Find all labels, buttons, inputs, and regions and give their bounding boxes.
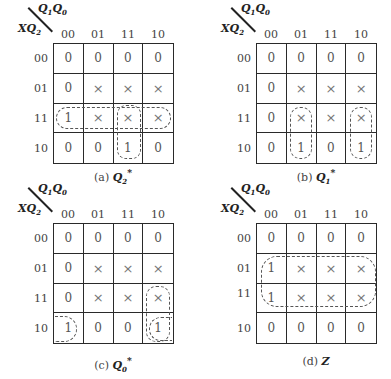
row-header: 11 <box>28 292 48 305</box>
cell: 0 <box>317 133 347 163</box>
row-header: 11 <box>231 287 251 300</box>
cell: 0 <box>84 313 114 343</box>
cell: 0 <box>257 74 287 104</box>
row-header: 00 <box>28 52 48 65</box>
row-header: 11 <box>231 112 251 125</box>
cell: × <box>317 74 347 104</box>
kmap-c: Q1Q0 XQ2 00 01 11 10 00 01 11 10 0 0 0 0… <box>0 180 180 365</box>
cell: × <box>84 284 114 314</box>
row-header: 10 <box>28 142 48 155</box>
cell: 0 <box>84 133 114 163</box>
cell: 0 <box>287 313 317 343</box>
col-header: 00 <box>256 208 286 221</box>
col-header: 10 <box>143 28 173 41</box>
cell: 0 <box>317 313 347 343</box>
cell: × <box>84 254 114 284</box>
cell: 0 <box>257 313 287 343</box>
kmap-a: Q1Q0 XQ2 00 01 11 10 00 01 11 10 0 0 0 0… <box>0 0 180 185</box>
map-caption: (c) Q0* <box>53 355 173 374</box>
cell: 0 <box>346 44 376 74</box>
row-header: 00 <box>231 232 251 245</box>
cell: 0 <box>143 133 173 163</box>
row-header: 01 <box>231 262 251 275</box>
cell: 0 <box>287 44 317 74</box>
col-header: 11 <box>316 28 346 41</box>
cell: × <box>84 74 114 104</box>
row-variable-label: XQ2 <box>221 22 244 37</box>
kmap-d: Q1Q0 XQ2 00 01 11 10 00 01 11 10 0 0 0 0… <box>203 180 383 365</box>
cell: × <box>317 104 347 134</box>
grouping-loop <box>350 107 372 159</box>
cell: × <box>143 254 173 284</box>
cell: 0 <box>54 133 84 163</box>
row-header: 10 <box>231 322 251 335</box>
row-variable-label: XQ2 <box>18 22 41 37</box>
cell: 0 <box>143 224 173 254</box>
cell: 0 <box>257 133 287 163</box>
col-header: 10 <box>346 208 376 221</box>
row-header: 01 <box>231 82 251 95</box>
cell: 0 <box>84 44 114 74</box>
cell: × <box>114 284 144 314</box>
map-caption: (d) Z <box>256 355 376 368</box>
kmap-grid: 0 0 0 0 0 × × × 1 × × × 0 0 1 0 <box>53 43 174 164</box>
cell: 0 <box>143 44 173 74</box>
cell: 0 <box>317 224 347 254</box>
cell: 0 <box>346 313 376 343</box>
cell: 0 <box>114 44 144 74</box>
col-header: 10 <box>143 208 173 221</box>
grouping-loop <box>149 317 172 341</box>
cell: 0 <box>54 254 84 284</box>
col-header: 11 <box>316 208 346 221</box>
grouping-loop <box>56 107 171 129</box>
row-header: 01 <box>28 82 48 95</box>
column-variable-label: Q1Q0 <box>241 2 270 17</box>
grouping-loop <box>261 256 376 307</box>
row-header: 00 <box>231 52 251 65</box>
row-header: 01 <box>28 262 48 275</box>
col-header: 00 <box>53 28 83 41</box>
row-variable-label: XQ2 <box>221 202 244 217</box>
cell: 0 <box>257 44 287 74</box>
kmap-b: Q1Q0 XQ2 00 01 11 10 00 01 11 10 0 0 0 0… <box>203 0 383 185</box>
row-header: 11 <box>28 112 48 125</box>
row-variable-label: XQ2 <box>18 202 41 217</box>
column-variable-label: Q1Q0 <box>241 182 270 197</box>
col-header: 01 <box>286 208 316 221</box>
cell: 0 <box>287 224 317 254</box>
cell: 0 <box>257 104 287 134</box>
col-header: 01 <box>83 28 113 41</box>
cell: 0 <box>114 313 144 343</box>
grouping-loop <box>117 105 141 159</box>
col-header: 10 <box>346 28 376 41</box>
column-variable-label: Q1Q0 <box>38 182 67 197</box>
cell: 0 <box>54 224 84 254</box>
cell: 0 <box>257 224 287 254</box>
cell: 0 <box>54 284 84 314</box>
cell: 0 <box>54 74 84 104</box>
cell: 0 <box>346 224 376 254</box>
row-header: 10 <box>231 142 251 155</box>
column-variable-label: Q1Q0 <box>38 2 67 17</box>
cell: × <box>143 74 173 104</box>
cell: × <box>114 254 144 284</box>
cell: × <box>287 74 317 104</box>
col-header: 11 <box>113 208 143 221</box>
row-header: 10 <box>28 322 48 335</box>
col-header: 11 <box>113 28 143 41</box>
cell: 0 <box>114 224 144 254</box>
cell: × <box>114 74 144 104</box>
cell: × <box>346 74 376 104</box>
col-header: 01 <box>83 208 113 221</box>
cell: 0 <box>54 44 84 74</box>
col-header: 00 <box>53 208 83 221</box>
cell: 0 <box>317 44 347 74</box>
col-header: 00 <box>256 28 286 41</box>
col-header: 01 <box>286 28 316 41</box>
cell: 0 <box>84 224 114 254</box>
grouping-loop <box>290 107 312 159</box>
row-header: 00 <box>28 232 48 245</box>
